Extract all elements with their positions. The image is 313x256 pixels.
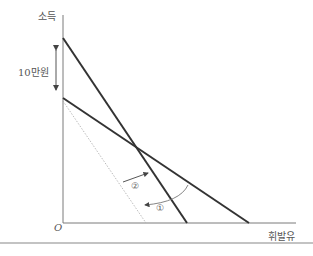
y-axis-label: 소득 <box>38 8 56 23</box>
steep-budget-line <box>63 38 187 223</box>
origin-label: O <box>54 222 62 233</box>
marker-2: ② <box>131 181 139 191</box>
interval-label: 10만원 <box>18 64 49 79</box>
rotation-arrow-1 <box>145 185 188 205</box>
marker-1: ① <box>156 203 164 213</box>
original-budget-line <box>63 101 146 223</box>
x-axis-label: 휘발유 <box>268 228 295 243</box>
budget-diagram <box>0 0 313 256</box>
